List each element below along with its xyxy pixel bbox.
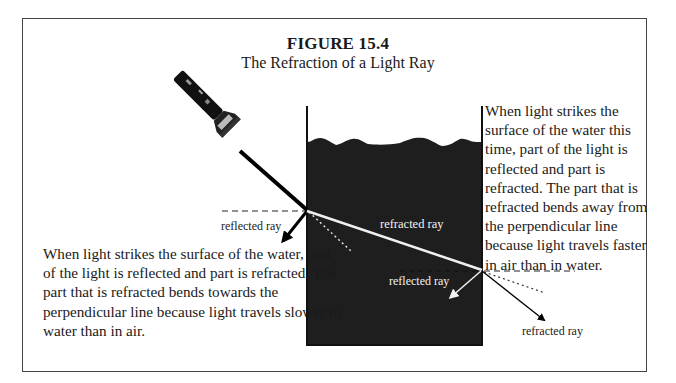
label-reflected-ray-air: reflected ray: [221, 219, 281, 234]
label-refracted-ray-water: refracted ray: [380, 217, 444, 232]
label-reflected-ray-water: reflected ray: [389, 274, 449, 289]
refracted-ray-air: [482, 271, 544, 320]
incident-ray: [240, 151, 307, 210]
reflected-ray-air: [283, 211, 307, 241]
label-refracted-ray-air: refracted ray: [522, 324, 583, 339]
caption-left: When light strikes the surface of the wa…: [43, 244, 343, 340]
flashlight-icon: [169, 66, 241, 138]
extended-path-right: [484, 272, 545, 293]
caption-right: When light strikes the surface of the wa…: [485, 101, 650, 274]
